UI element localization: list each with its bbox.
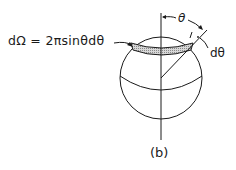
solid-angle-diagram: dΩ = 2πsinθdθ θ dθ (b) [0, 0, 236, 170]
figure-caption: (b) [150, 146, 168, 159]
dtheta-label: dθ [210, 47, 225, 59]
dtheta-dot [197, 36, 199, 38]
dtheta-tick [190, 32, 192, 38]
dtheta-leader [200, 38, 208, 48]
solid-angle-band [131, 43, 193, 55]
theta-label: θ [178, 12, 185, 24]
solid-angle-formula: dΩ = 2πsinθdθ [8, 35, 104, 48]
sphere-drawing [0, 0, 236, 170]
theta-arrowhead-left [162, 15, 166, 19]
